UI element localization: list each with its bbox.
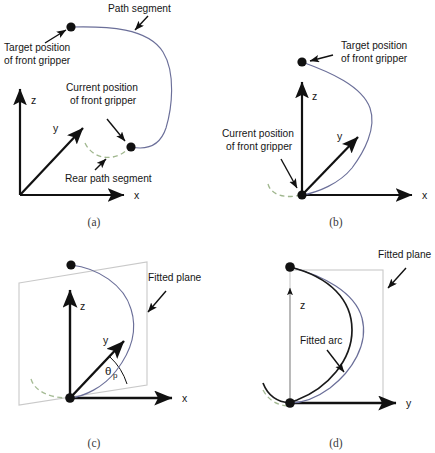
panel-b-path-segment-curve	[302, 62, 372, 195]
panel-a: z x y Path segment Target position of fr…	[4, 3, 172, 229]
panel-a-y-label: y	[53, 122, 59, 134]
panel-a-target-label-line1: Target position	[4, 42, 70, 53]
panel-c-x-label: x	[182, 392, 188, 404]
panel-c-fitted-plane-leader	[148, 291, 166, 312]
panel-a-current-label-line1: Current position	[66, 82, 138, 93]
panel-b-y-label: y	[337, 130, 343, 142]
panel-a-rear-leader	[95, 159, 106, 170]
panel-a-z-label: z	[31, 94, 36, 106]
panel-d-rear-arc-curve	[263, 383, 290, 403]
panel-c-z-label: z	[80, 300, 85, 312]
panel-d-caption: (d)	[329, 437, 343, 450]
panel-c-current-dot	[65, 393, 75, 403]
panel-c-rear-path-curve	[31, 379, 68, 398]
panel-b-target-label-line2: of front gripper	[341, 53, 408, 64]
panel-b-x-label: x	[422, 189, 428, 201]
panel-d-fitted-arc-label: Fitted arc	[300, 335, 342, 346]
panel-c-caption: (c)	[88, 437, 101, 450]
panel-a-rear-path-curve	[85, 143, 127, 157]
panel-d-y-label: y	[406, 397, 412, 409]
panel-c-target-dot	[66, 260, 75, 269]
panel-d-target-dot	[285, 262, 295, 272]
panel-d-fitted-plane-label: Fitted plane	[378, 249, 432, 260]
panel-c: z x y Fitted plane θ p (c)	[19, 260, 202, 450]
panel-b-target-leader	[310, 55, 333, 61]
panel-a-target-label-line2: of front gripper	[4, 55, 71, 66]
panel-c-axes: z x y	[70, 290, 188, 404]
panel-b-target-label-line1: Target position	[341, 40, 407, 51]
panel-b-axes: z x y	[302, 82, 428, 201]
figure-root: z x y Path segment Target position of fr…	[0, 0, 435, 453]
panel-b-current-label-line1: Current position	[222, 128, 294, 139]
panel-d-z-label: z	[300, 299, 305, 311]
panel-a-rear-label: Rear path segment	[65, 173, 152, 184]
panel-c-path-segment-curve	[71, 265, 134, 398]
panel-b-z-label: z	[312, 90, 317, 102]
panel-a-current-label-line2: of front gripper	[70, 95, 137, 106]
panel-b-y-axis	[302, 137, 358, 195]
panel-b-target-dot	[297, 57, 306, 66]
panel-c-fitted-plane-label: Fitted plane	[148, 272, 202, 283]
panel-a-path-segment-leader	[135, 16, 148, 30]
panel-a-path-segment-label: Path segment	[108, 3, 171, 14]
panel-a-current-dot	[126, 142, 135, 151]
panel-a-target-dot	[66, 22, 75, 31]
panel-c-theta-label: θ p	[105, 365, 118, 380]
panel-d-fitted-arc-leader	[327, 350, 344, 372]
panel-b-current-leader	[281, 159, 297, 188]
panel-b: z x y Target position of front gripper C…	[222, 40, 428, 229]
panel-b-caption: (b)	[329, 216, 343, 229]
panel-d-current-dot	[285, 398, 295, 408]
panel-c-y-label: y	[103, 334, 109, 346]
panel-a-x-label: x	[134, 189, 140, 201]
panel-c-theta-symbol: θ	[105, 365, 111, 377]
panel-d: z y Fitted plane Fitted arc (d)	[263, 249, 432, 450]
panel-b-current-dot	[297, 190, 306, 199]
panel-d-fitted-plane-leader	[388, 268, 406, 288]
panel-b-current-label-line2: of front gripper	[226, 141, 293, 152]
panel-a-current-leader	[107, 119, 125, 141]
panel-d-axes: z y	[290, 288, 412, 409]
panel-a-y-axis	[20, 128, 83, 195]
panel-c-theta-subscript: p	[113, 371, 118, 380]
panel-a-caption: (a)	[88, 216, 101, 229]
